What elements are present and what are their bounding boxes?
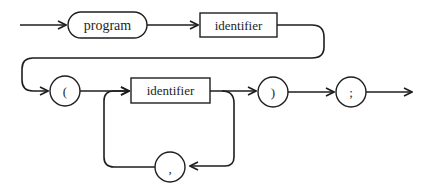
identifier-node-2: identifier <box>131 78 210 103</box>
semicolon-node: ; <box>336 77 366 107</box>
syntax-diagram: program identifier ( identifier ) ; , <box>0 0 427 192</box>
comma-label: , <box>168 161 171 176</box>
rparen-node: ) <box>258 77 288 107</box>
program-node: program <box>68 12 147 38</box>
comma-node: , <box>155 152 185 182</box>
lparen-label: ( <box>63 84 67 99</box>
semicolon-label: ; <box>349 85 353 100</box>
identifier-node-1: identifier <box>200 13 277 37</box>
rparen-label: ) <box>271 85 275 100</box>
program-label: program <box>84 18 132 33</box>
identifier-label-2: identifier <box>147 83 195 98</box>
identifier-label-1: identifier <box>215 18 263 33</box>
lparen-node: ( <box>50 76 80 106</box>
